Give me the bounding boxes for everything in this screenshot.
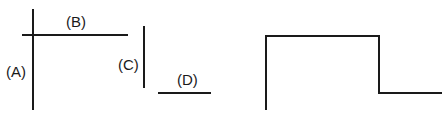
label-c: (C) (118, 57, 139, 72)
diagram-canvas: (A) (B) (C) (D) (0, 0, 442, 118)
label-a: (A) (6, 64, 26, 79)
step-shape (266, 36, 442, 110)
label-b: (B) (66, 14, 86, 29)
label-d: (D) (177, 72, 198, 87)
